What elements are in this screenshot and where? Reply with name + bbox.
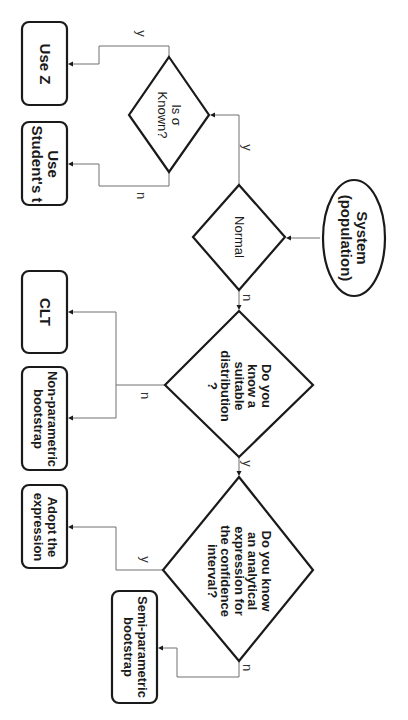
edge-label-normal-no: n bbox=[240, 294, 255, 301]
adopt-label-line1: Adopt the bbox=[45, 497, 59, 558]
start-label-line1: System bbox=[354, 211, 370, 264]
normal-label-text: Normal bbox=[232, 216, 246, 258]
edge-label-normal-yes: y bbox=[240, 144, 255, 151]
analytical-label: Do you know an analytical expression for… bbox=[204, 516, 274, 626]
analytical-label-line3: expression for bbox=[232, 526, 246, 616]
analytical-label-line4: the confidence bbox=[219, 525, 233, 617]
arrowhead bbox=[237, 305, 242, 310]
sigma-label: Is σ Known? bbox=[155, 85, 183, 145]
edge-analytical-adopt bbox=[70, 527, 163, 570]
start-label: System (population) bbox=[339, 188, 369, 288]
normal-label: Normal bbox=[231, 202, 247, 272]
suitable-label-line1: Do you bbox=[259, 364, 273, 408]
nonparametric-label-line1: Non-parametric bbox=[45, 371, 59, 467]
analytical-label-line5: interval? bbox=[205, 544, 219, 598]
analytical-label-line2: an analytical bbox=[246, 532, 260, 610]
suitable-label-line5: ? bbox=[205, 382, 219, 390]
semiparametric-label-line2: bootstrap bbox=[121, 617, 135, 677]
suitable-label-line3: suitable bbox=[232, 361, 246, 410]
arrowhead bbox=[237, 471, 242, 476]
nonparametric-label-line2: bootstrap bbox=[31, 389, 45, 449]
nonparametric-label: Non-parametric bootstrap bbox=[30, 364, 60, 474]
edge-label-suitable-yes: y bbox=[240, 460, 255, 467]
suitable-label-line2: know a bbox=[246, 364, 260, 408]
edge-label-sigma-no: n bbox=[134, 192, 149, 199]
arrowhead bbox=[68, 62, 73, 67]
clt-label-text: CLT bbox=[37, 298, 53, 326]
arrowhead bbox=[68, 310, 73, 315]
edge-suitable-nonparam bbox=[70, 385, 116, 418]
use-z-label-text: Use Z bbox=[37, 44, 53, 85]
edge-label-analytical-no: n bbox=[240, 664, 255, 671]
arrowhead bbox=[68, 162, 73, 167]
use-t-label-line2: Student's t bbox=[29, 126, 45, 203]
arrowhead bbox=[286, 236, 291, 241]
semiparametric-label: Semi-parametric bootstrap bbox=[120, 592, 150, 702]
adopt-label: Adopt the expression bbox=[30, 482, 60, 572]
arrowhead bbox=[68, 525, 73, 530]
edge-suitable-clt bbox=[70, 312, 116, 385]
sigma-label-line1: Is σ bbox=[169, 104, 183, 126]
use-t-label-line1: Use bbox=[45, 150, 61, 178]
arrowhead bbox=[158, 646, 163, 651]
sigma-label-line2: Known? bbox=[155, 92, 169, 139]
adopt-label-line2: expression bbox=[31, 493, 45, 562]
edge-label-analytical-yes: y bbox=[138, 556, 153, 563]
suitable-label: Do you know a suitable distribution ? bbox=[208, 337, 270, 435]
arrowhead bbox=[210, 113, 215, 118]
suitable-label-line4: distribution bbox=[219, 350, 233, 422]
start-label-line2: (population) bbox=[338, 195, 354, 282]
edge-label-sigma-yes: y bbox=[134, 30, 149, 37]
semiparametric-label-line1: Semi-parametric bbox=[135, 596, 149, 698]
use-t-label: Use Student's t bbox=[30, 118, 60, 210]
use-z-label: Use Z bbox=[36, 34, 54, 94]
analytical-label-line1: Do you know bbox=[259, 531, 273, 612]
arrowhead bbox=[68, 416, 73, 421]
edge-normal-sigma bbox=[212, 115, 239, 185]
edge-sigma-usez bbox=[70, 46, 169, 64]
edge-sigma-uset bbox=[70, 164, 169, 186]
clt-label: CLT bbox=[36, 282, 54, 342]
edge-label-suitable-no: n bbox=[138, 392, 153, 399]
edge-analytical-semiparam bbox=[160, 648, 239, 677]
